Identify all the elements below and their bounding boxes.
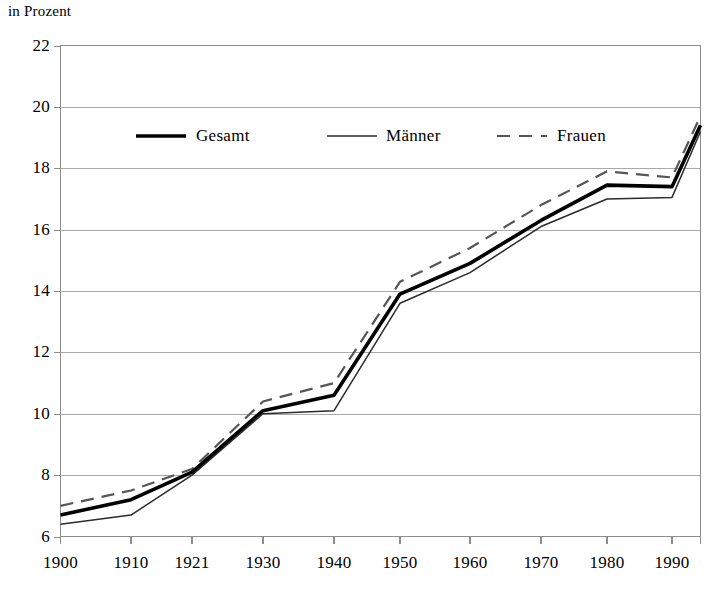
y-tick-label: 16 [6,221,50,238]
y-tick-label: 14 [6,282,50,299]
x-tick-label: 1930 [228,554,298,571]
axis-lines [60,45,701,537]
x-tick-label: 1940 [299,554,369,571]
data-series-group [61,116,701,524]
y-tick-label: 12 [6,343,50,360]
legend-label-frauen: Frauen [557,127,606,144]
x-tick-label: 1980 [572,554,642,571]
x-tick-label: 1921 [157,554,227,571]
y-tick-label: 20 [6,98,50,115]
x-tick-label: 1970 [506,554,576,571]
series-line-gesamt [61,125,701,515]
x-tick-label: 1900 [26,554,96,571]
line-chart: in Prozent 2220181614121086 190019101921… [0,0,721,601]
axis-ticks [54,47,701,544]
series-line-frauen [61,116,701,506]
y-tick-label: 22 [6,37,50,54]
x-tick-label: 1960 [435,554,505,571]
gridlines [61,108,701,476]
chart-canvas [0,0,721,601]
legend-label-männer: Männer [386,127,441,144]
x-tick-label: 1910 [96,554,166,571]
y-tick-label: 18 [6,159,50,176]
x-tick-label: 1990 [637,554,707,571]
y-tick-label: 8 [6,466,50,483]
y-tick-label: 6 [6,528,50,545]
x-tick-label: 1950 [365,554,435,571]
y-tick-label: 10 [6,405,50,422]
series-line-männer [61,131,701,524]
legend-label-gesamt: Gesamt [196,127,250,144]
